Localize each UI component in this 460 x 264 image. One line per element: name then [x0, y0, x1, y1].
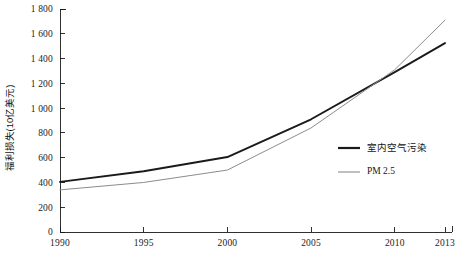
x-tick-label: 1990	[50, 238, 70, 248]
x-tick-label: 2005	[301, 238, 321, 248]
y-tick-label: 0	[48, 227, 53, 237]
series-lines	[60, 20, 445, 190]
legend-label-1: PM 2.5	[367, 166, 395, 176]
x-tick-label: 1995	[134, 238, 154, 248]
y-tick-label: 600	[38, 153, 53, 163]
chart-container: 福利损失(10亿美元) 02004006008001 0001 2001 400…	[0, 0, 460, 264]
legend-label-0: 室内空气污染	[367, 142, 427, 153]
y-tick-label: 1 000	[31, 104, 53, 114]
line-chart: 福利损失(10亿美元) 02004006008001 0001 2001 400…	[0, 0, 460, 264]
y-tick-label: 1 800	[31, 4, 53, 14]
x-tick-label: 2013	[435, 238, 455, 248]
series-line-0	[60, 43, 445, 182]
y-tick-label: 1 200	[31, 79, 53, 89]
x-tick-label: 2010	[385, 238, 405, 248]
y-tick-label: 800	[38, 128, 53, 138]
axis-lines	[60, 9, 452, 232]
series-line-1	[60, 20, 445, 190]
chart-legend: 室内空气污染PM 2.5	[338, 142, 427, 177]
y-axis-title-group: 福利损失(10亿美元)	[4, 85, 15, 172]
y-tick-label: 1 600	[31, 29, 53, 39]
y-tick-label: 200	[38, 203, 53, 213]
x-axis-ticks: 199019952000200520102013	[50, 227, 455, 248]
y-axis-title: 福利损失(10亿美元)	[4, 85, 15, 172]
y-tick-label: 400	[38, 178, 53, 188]
x-tick-label: 2000	[217, 238, 237, 248]
y-tick-label: 1 400	[31, 54, 53, 64]
